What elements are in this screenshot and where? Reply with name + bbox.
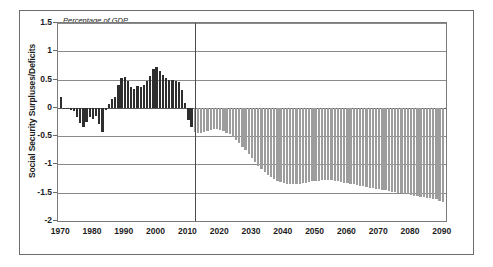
bar: [251, 108, 253, 158]
bar: [381, 108, 383, 190]
bar: [244, 108, 246, 150]
bar: [330, 108, 332, 180]
bar: [359, 108, 361, 186]
bar: [302, 108, 304, 183]
bar: [400, 108, 402, 193]
plot-area: [57, 22, 447, 222]
bar: [190, 108, 192, 127]
bar: [432, 108, 434, 199]
y-tick-mark: [53, 22, 57, 23]
bar: [426, 108, 428, 198]
bar: [136, 86, 138, 108]
bar: [254, 108, 256, 162]
gridline: [58, 51, 446, 52]
bar: [346, 108, 348, 183]
bar: [149, 76, 151, 108]
bar: [324, 108, 326, 180]
bar: [343, 108, 345, 183]
bar: [308, 108, 310, 182]
bar: [384, 108, 386, 191]
bar: [279, 108, 281, 182]
bar: [66, 108, 68, 109]
bar: [101, 108, 103, 132]
bar: [372, 108, 374, 188]
bar: [203, 108, 205, 132]
bar: [340, 108, 342, 182]
bar: [438, 108, 440, 201]
bar: [117, 85, 119, 108]
bar: [108, 104, 110, 107]
bar: [318, 108, 320, 181]
y-tick-label: 0.5: [16, 74, 52, 84]
bar: [124, 77, 126, 108]
bar: [152, 69, 154, 107]
bar: [327, 108, 329, 180]
bar: [267, 108, 269, 175]
bar: [283, 108, 285, 183]
bar: [362, 108, 364, 187]
bar: [260, 108, 262, 169]
chart-figure: Social Security Surpluses/Deficits Perce…: [0, 0, 493, 267]
gridline: [58, 221, 446, 222]
y-tick-mark: [53, 50, 57, 51]
bar: [89, 108, 91, 118]
bar: [238, 108, 240, 144]
bar: [60, 97, 62, 108]
bar: [120, 78, 122, 107]
bar: [73, 108, 75, 111]
bar: [219, 108, 221, 130]
bar: [111, 99, 113, 108]
bar: [229, 108, 231, 135]
bar: [404, 108, 406, 194]
bar: [162, 75, 164, 108]
bar: [295, 108, 297, 184]
bar: [206, 108, 208, 131]
bar: [175, 81, 177, 108]
bar: [168, 80, 170, 108]
bar: [130, 87, 132, 108]
bar: [442, 108, 444, 202]
bar: [416, 108, 418, 196]
bar: [241, 108, 243, 147]
bar: [225, 108, 227, 133]
bar: [305, 108, 307, 183]
bar: [299, 108, 301, 184]
bar: [98, 108, 100, 124]
y-tick-label: 0: [16, 102, 52, 112]
bar: [178, 82, 180, 107]
y-tick-label: -0.5: [16, 130, 52, 140]
y-tick-label: -1.5: [16, 187, 52, 197]
bar: [82, 108, 84, 127]
bar: [353, 108, 355, 184]
bar: [419, 108, 421, 197]
y-tick-mark: [53, 79, 57, 80]
bar: [114, 97, 116, 108]
bar: [133, 89, 135, 108]
bar: [187, 108, 189, 120]
bar: [276, 108, 278, 181]
bar: [273, 108, 275, 179]
y-tick-label: 1: [16, 45, 52, 55]
bar: [63, 108, 65, 109]
bar: [397, 108, 399, 193]
bar: [127, 81, 129, 108]
gridline: [58, 80, 446, 81]
bar: [76, 108, 78, 117]
bar: [85, 108, 87, 122]
bar: [140, 87, 142, 107]
bar: [334, 108, 336, 181]
y-tick-label: -1: [16, 158, 52, 168]
bar: [181, 90, 183, 108]
bar: [410, 108, 412, 195]
bar: [216, 108, 218, 129]
y-tick-mark: [53, 163, 57, 164]
bar: [369, 108, 371, 188]
bar: [378, 108, 380, 189]
bar: [197, 108, 199, 133]
bar: [165, 78, 167, 108]
bar: [248, 108, 250, 154]
bar: [264, 108, 266, 172]
bar: [184, 103, 186, 108]
bar: [365, 108, 367, 187]
bar: [423, 108, 425, 197]
